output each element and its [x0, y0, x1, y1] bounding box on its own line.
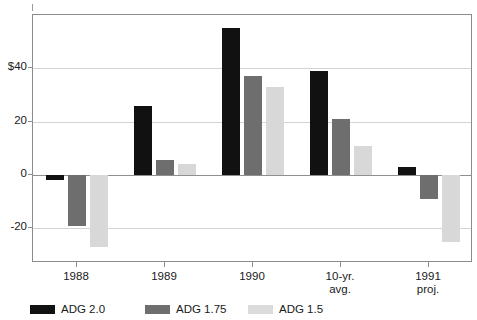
dark-gray-swatch — [145, 305, 170, 314]
y-tick-mark-20 — [28, 121, 32, 122]
x-tick-mark-4 — [428, 262, 429, 267]
x-tick-mark-1 — [164, 262, 165, 267]
x-axis-label-line1: 10-yr. — [326, 270, 355, 282]
x-axis-label-line2: proj. — [383, 283, 473, 296]
x-axis-label-2: 1990 — [207, 270, 297, 283]
light-gray-swatch — [248, 305, 273, 314]
bar-chart: -20020$40 19881989199010-yr.avg.1991proj… — [0, 0, 477, 320]
legend-item-adg-2-0[interactable]: ADG 2.0 — [30, 304, 105, 316]
y-tick-label-0: 0 — [0, 168, 27, 180]
x-axis-label-4: 1991proj. — [383, 270, 473, 296]
y-tick-mark--20 — [28, 227, 32, 228]
y-tick-mark-0 — [28, 174, 32, 175]
x-tick-mark-0 — [76, 262, 77, 267]
x-axis-label-3: 10-yr.avg. — [295, 270, 385, 296]
legend-item-adg-1-75[interactable]: ADG 1.75 — [145, 304, 227, 316]
y-tick-mark-40 — [28, 67, 32, 68]
legend-label: ADG 1.75 — [176, 304, 227, 316]
legend-item-adg-1-5[interactable]: ADG 1.5 — [248, 304, 323, 316]
x-axis-label-line1: 1989 — [151, 270, 177, 282]
x-tick-mark-3 — [340, 262, 341, 267]
x-axis-label-0: 1988 — [31, 270, 121, 283]
x-axis-label-line2: avg. — [295, 283, 385, 296]
legend-label: ADG 1.5 — [279, 304, 323, 316]
black-swatch — [30, 305, 55, 314]
y-tick-label--20: -20 — [0, 221, 27, 233]
x-axis-label-line1: 1988 — [63, 270, 89, 282]
x-axis-label-line1: 1990 — [239, 270, 265, 282]
legend-label: ADG 2.0 — [61, 304, 105, 316]
x-axis-label-1: 1989 — [119, 270, 209, 283]
x-tick-mark-2 — [252, 262, 253, 267]
y-tick-label-20: 20 — [0, 115, 27, 127]
x-axis-label-line1: 1991 — [415, 270, 441, 282]
y-tick-label-40: $40 — [0, 61, 27, 73]
